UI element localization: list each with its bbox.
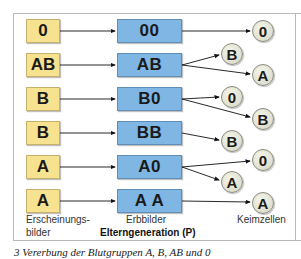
gamete-circle: 0 [221, 86, 243, 108]
gamete-circle: B [252, 108, 274, 130]
gamete-circle: A [252, 64, 274, 86]
phenotype-box: A [26, 189, 60, 213]
phenotype-box: B [26, 87, 60, 111]
gamete-circle: B [221, 43, 243, 65]
genotype-box: AB [117, 53, 182, 77]
genotype-box: A0 [117, 155, 182, 179]
genotype-box: BB [117, 121, 182, 145]
phenotype-box: A [26, 155, 60, 179]
phenotype-box: AB [26, 53, 60, 77]
gamete-circle: 0 [252, 20, 274, 42]
genotype-box: A A [117, 189, 182, 213]
gamete-circle: A [252, 192, 274, 214]
phenotype-label-line1: Erscheinungs- [26, 213, 90, 226]
gamete-circle: 0 [252, 149, 274, 171]
genotype-box: B0 [117, 87, 182, 111]
phenotype-box: B [26, 121, 60, 145]
genotype-box: 00 [117, 19, 182, 43]
gamete-circle: B [221, 130, 243, 152]
gametes-label: Keimzellen [237, 213, 286, 226]
figure-caption: 3 Vererbung der Blutgruppen A, B, AB und… [14, 246, 211, 258]
generation-label: Elterngeneration (P) [100, 226, 196, 239]
phenotype-label-line2: bilder [26, 226, 50, 239]
gamete-circle: A [221, 171, 243, 193]
phenotype-box: 0 [26, 19, 60, 43]
genotype-label: Erbbilder [126, 213, 166, 226]
